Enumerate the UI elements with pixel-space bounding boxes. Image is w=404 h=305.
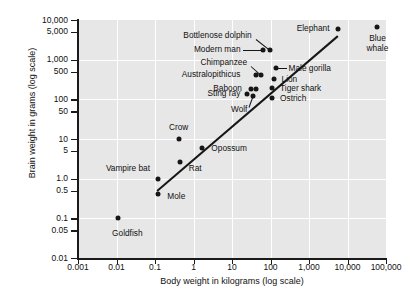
gridline-vertical xyxy=(386,20,387,258)
data-point xyxy=(335,26,340,31)
data-point-label: Lion xyxy=(282,75,298,85)
data-point xyxy=(176,137,181,142)
x-axis-tick-label: 0.001 xyxy=(67,263,88,272)
data-point-label: Goldfish xyxy=(112,230,142,240)
data-point xyxy=(253,87,258,92)
y-axis-tick xyxy=(71,32,78,33)
data-point-label: Ostrich xyxy=(280,94,306,104)
y-axis-tick xyxy=(71,139,78,140)
data-point-label: Australopithicus xyxy=(182,70,241,80)
data-point-label: Chimpanzee xyxy=(201,58,248,68)
data-point-label: Bluewhale xyxy=(367,33,389,53)
y-axis-tick xyxy=(71,258,78,259)
x-axis-tick-label: 1,000 xyxy=(298,263,319,272)
data-point xyxy=(245,92,250,97)
x-axis-tick-label: 1 xyxy=(191,263,196,272)
data-point-label: Baboon xyxy=(213,84,242,94)
x-axis-tick-label: 0.01 xyxy=(108,263,125,272)
y-axis-tick-label: 0.01 xyxy=(4,254,68,263)
y-axis-tick xyxy=(71,72,78,73)
data-point-label: Male gorilla xyxy=(289,65,331,75)
x-axis-tick-label: 100 xyxy=(263,263,277,272)
gridline-horizontal xyxy=(78,179,386,180)
data-point xyxy=(116,216,121,221)
x-axis-tick-label: 100,000 xyxy=(371,263,402,272)
data-point-label: Opossum xyxy=(211,144,247,154)
gridline-horizontal xyxy=(78,99,386,100)
data-point xyxy=(200,145,205,150)
data-point-label: Tiger shark xyxy=(280,85,321,95)
y-axis-tick xyxy=(71,179,78,180)
x-axis-tick-label: 0.1 xyxy=(149,263,161,272)
y-axis-tick xyxy=(71,111,78,112)
data-point-label: Modern man xyxy=(194,45,241,55)
data-point xyxy=(156,176,161,181)
y-axis-tick xyxy=(71,191,78,192)
x-axis-tick-label: 10,000 xyxy=(335,263,361,272)
data-point-label: Bottlenose dolphin xyxy=(183,31,251,41)
data-point xyxy=(271,76,276,81)
data-point xyxy=(270,86,275,91)
data-point-label: Mole xyxy=(167,192,185,202)
data-point-label: Crow xyxy=(169,123,188,133)
data-point xyxy=(270,95,275,100)
y-axis-tick xyxy=(71,60,78,61)
brain-body-weight-scatter-chart: 10,0005,0001,000500100501051.00.50.10.05… xyxy=(0,0,404,305)
x-axis-title: Body weight in kilograms (log scale) xyxy=(78,276,386,286)
data-point-label: Rat xyxy=(189,164,202,174)
plot-area xyxy=(78,20,386,258)
data-point-label: Elephant xyxy=(297,24,330,34)
data-point xyxy=(375,25,380,30)
x-axis-tick-label: 10 xyxy=(227,263,236,272)
y-axis-tick xyxy=(71,20,78,21)
data-point xyxy=(156,191,161,196)
y-axis-tick xyxy=(71,151,78,152)
gridline-horizontal xyxy=(78,139,386,140)
data-point-label: Vampire bat xyxy=(106,164,150,174)
y-axis-tick xyxy=(71,218,78,219)
y-axis-tick-label: 0.1 xyxy=(4,214,68,223)
data-point-label: Wolf xyxy=(231,105,247,115)
gridline-horizontal xyxy=(78,218,386,219)
y-axis-tick xyxy=(71,99,78,100)
data-point xyxy=(177,160,182,165)
label-leader-line xyxy=(243,50,263,51)
y-axis-tick xyxy=(71,230,78,231)
y-axis-tick-label: 0.05 xyxy=(4,226,68,235)
y-axis-title: Brain weight in grams (log scale) xyxy=(27,18,37,208)
